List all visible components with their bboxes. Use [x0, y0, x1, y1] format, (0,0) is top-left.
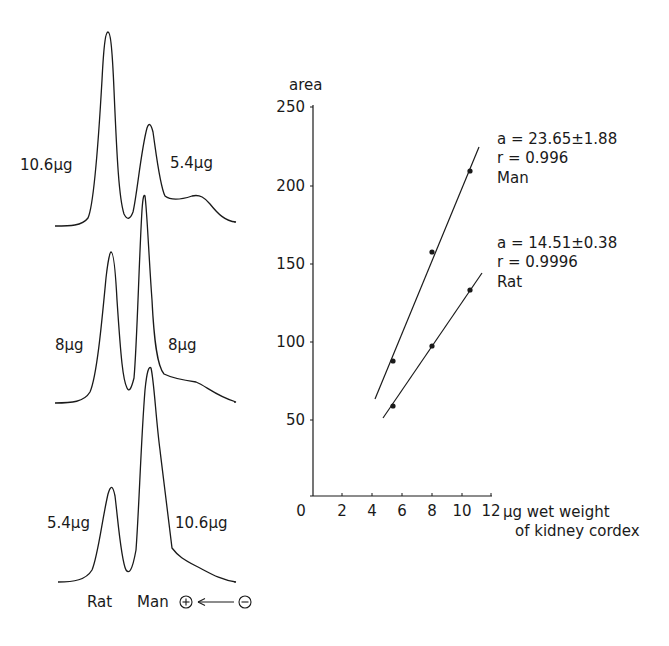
x-ticks: 0 2 4 6 8 10 12 — [296, 493, 500, 520]
rat-point — [390, 403, 395, 408]
x-tick-4: 4 — [367, 502, 377, 520]
y-tick-100: 100 — [276, 333, 305, 351]
series-rat: a = 14.51±0.38 r = 0.9996 Rat — [383, 234, 617, 418]
x-tick-8: 8 — [427, 502, 437, 520]
y-tick-50: 50 — [286, 411, 305, 429]
y-tick-150: 150 — [276, 255, 305, 273]
y-tick-250: 250 — [276, 98, 305, 116]
x-axis-label-line2: of kidney cordex — [515, 522, 640, 540]
cathode-minus-icon — [239, 596, 251, 608]
figure: 10.6μg 5.4μg 8μg 8μg 5.4μg 10.6μg Rat Ma… — [0, 0, 669, 646]
rat-point — [429, 343, 434, 348]
regression-plot: area 250 200 150 100 50 0 2 4 6 8 — [276, 76, 639, 540]
trace-1: 10.6μg 5.4μg — [20, 32, 236, 226]
trace-2-left-label: 8μg — [55, 336, 84, 354]
man-point — [467, 168, 472, 173]
x-tick-6: 6 — [397, 502, 407, 520]
y-axis-label: area — [289, 76, 322, 94]
trace-1-left-label: 10.6μg — [20, 156, 72, 174]
x-tick-12: 12 — [481, 502, 500, 520]
man-point — [390, 358, 395, 363]
man-point — [429, 249, 434, 254]
x-tick-10: 10 — [452, 502, 471, 520]
trace-1-right-label: 5.4μg — [170, 154, 213, 172]
x-axis-label-line1: μg wet weight — [503, 503, 610, 521]
x-tick-2: 2 — [337, 502, 347, 520]
man-slope-label: a = 23.65±1.88 — [497, 130, 617, 148]
rat-name-label: Rat — [497, 273, 522, 291]
x-tick-0: 0 — [296, 502, 306, 520]
y-tick-200: 200 — [276, 177, 305, 195]
man-name-label: Man — [497, 169, 529, 187]
trace-3-left-label: 5.4μg — [47, 514, 90, 532]
rat-slope-label: a = 14.51±0.38 — [497, 234, 617, 252]
trace-2-right-label: 8μg — [168, 336, 197, 354]
rat-r-label: r = 0.9996 — [497, 253, 578, 271]
rat-label: Rat — [87, 593, 112, 611]
rat-point — [467, 287, 472, 292]
electrophoresis-legend: Rat Man — [87, 593, 251, 611]
man-r-label: r = 0.996 — [497, 149, 568, 167]
trace-3-right-label: 10.6μg — [175, 514, 227, 532]
man-label: Man — [137, 593, 169, 611]
y-ticks: 250 200 150 100 50 — [276, 98, 313, 429]
trace-3: 5.4μg 10.6μg — [47, 368, 236, 582]
arrow-left-icon — [198, 599, 234, 606]
trace-2: 8μg 8μg — [55, 195, 236, 403]
anode-plus-icon — [180, 596, 192, 608]
